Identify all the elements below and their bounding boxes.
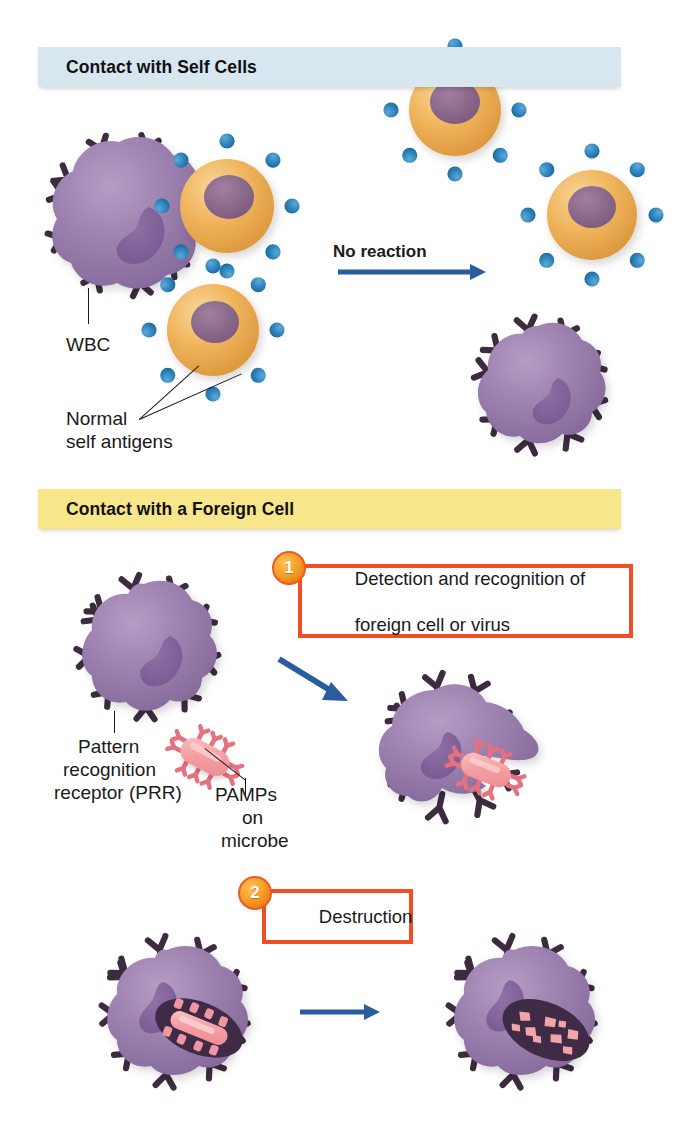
prr-label-line2: recognition bbox=[63, 758, 156, 781]
step-2-number: 2 bbox=[250, 883, 259, 903]
destruction-arrow bbox=[300, 1004, 380, 1020]
wbc-foreign-left bbox=[76, 575, 218, 719]
pamps-label-line3: microbe bbox=[221, 829, 289, 852]
self-antigen-leader-b bbox=[139, 373, 242, 420]
self-antigen-leader-a bbox=[139, 365, 199, 420]
wbc-self-right bbox=[474, 317, 606, 454]
wbc-engulfing bbox=[379, 673, 539, 821]
pamps-label-line1: PAMPs bbox=[215, 783, 277, 806]
step-2-callout: Destruction bbox=[262, 889, 413, 944]
step-1-text-line2: foreign cell or virus bbox=[355, 614, 510, 635]
wbc-leader-line bbox=[88, 288, 89, 324]
wbc-label: WBC bbox=[66, 333, 110, 356]
step-1-text-line1: Detection and recognition of bbox=[355, 568, 585, 589]
section-header-self: Contact with Self Cells bbox=[38, 47, 621, 87]
pamps-label-line2: on bbox=[242, 806, 263, 829]
section-header-foreign: Contact with a Foreign Cell bbox=[38, 489, 621, 529]
section-header-foreign-label: Contact with a Foreign Cell bbox=[38, 499, 294, 520]
step-2-text: Destruction bbox=[266, 875, 426, 958]
self-cell-right-middle bbox=[520, 143, 663, 286]
wbc-vacuole-intact bbox=[102, 936, 252, 1087]
normal-self-antigens-label-line1: Normal bbox=[66, 407, 127, 430]
step-1-badge: 1 bbox=[272, 551, 306, 585]
wbc-vacuole-destroyed bbox=[449, 936, 599, 1087]
step-2-text-line1: Destruction bbox=[319, 906, 413, 927]
no-reaction-label: No reaction bbox=[333, 240, 427, 263]
figure-canvas: Contact with Self Cells Contact with a F… bbox=[0, 0, 696, 1131]
step-1-number: 1 bbox=[284, 558, 293, 578]
step-1-callout: Detection and recognition of foreign cel… bbox=[298, 564, 633, 638]
prr-label-line1: Pattern bbox=[78, 735, 139, 758]
pamps-leader-diagonal bbox=[204, 748, 246, 781]
self-cell-lower-left bbox=[141, 258, 284, 401]
section-header-self-label: Contact with Self Cells bbox=[38, 57, 257, 78]
step-1-text: Detection and recognition of foreign cel… bbox=[302, 537, 599, 666]
prr-label-line3: receptor (PRR) bbox=[54, 781, 182, 804]
self-cell-upper-mid bbox=[154, 133, 299, 278]
prr-leader-line bbox=[114, 711, 115, 733]
step-2-badge: 2 bbox=[238, 876, 272, 910]
normal-self-antigens-label-line2: self antigens bbox=[66, 430, 173, 453]
wbc-self-left bbox=[48, 135, 207, 296]
no-reaction-arrow bbox=[338, 264, 486, 280]
